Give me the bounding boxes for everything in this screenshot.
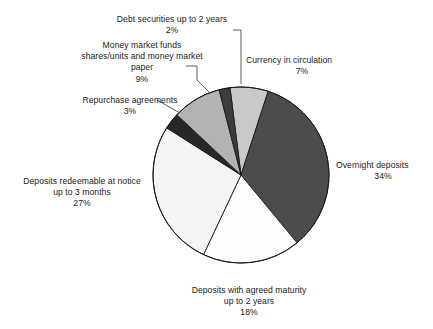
slice-label-money-market-funds-line3: paper bbox=[46, 62, 238, 73]
slice-label-money-market-funds-line2: shares/units and money market bbox=[46, 51, 238, 62]
slice-label-currency-in-circulation: Currency in circulation 7% bbox=[246, 55, 376, 77]
slice-label-overnight-line1: Overnight deposits bbox=[336, 160, 432, 171]
slice-label-repurchase-agreements-line1: Repurchase agreements bbox=[40, 95, 220, 106]
slice-label-deposits-agreed-maturity-line2: up to 2 years bbox=[158, 296, 340, 307]
slice-label-deposits-agreed-maturity-line1: Deposits with agreed maturity bbox=[158, 285, 340, 296]
slice-label-deposits-redeemable-line1: Deposits redeemable at notice bbox=[6, 176, 158, 187]
slice-label-deposits-agreed-maturity: Deposits with agreed maturity up to 2 ye… bbox=[158, 285, 340, 319]
slice-label-debt-securities-line1: Debt securities up to 2 years bbox=[92, 14, 252, 25]
slice-label-deposits-redeemable-line2: up to 3 months bbox=[6, 187, 158, 198]
slice-value-deposits-redeemable: 27% bbox=[6, 198, 158, 209]
slice-label-overnight-deposits: Overnight deposits 34% bbox=[336, 160, 432, 182]
slice-value-overnight: 34% bbox=[336, 171, 430, 182]
slice-value-deposits-agreed-maturity: 18% bbox=[158, 307, 340, 318]
slice-label-money-market-funds-line1: Money market funds bbox=[46, 40, 238, 51]
slice-label-money-market-funds: Money market funds shares/units and mone… bbox=[46, 40, 238, 85]
slice-value-repurchase-agreements: 3% bbox=[40, 106, 220, 117]
slice-label-currency-line1: Currency in circulation bbox=[246, 55, 376, 66]
slice-label-repurchase-agreements: Repurchase agreements 3% bbox=[40, 95, 220, 117]
slice-label-deposits-redeemable-at-notice: Deposits redeemable at notice up to 3 mo… bbox=[6, 176, 158, 210]
pie-chart-figure: Debt securities up to 2 years 2% Money m… bbox=[0, 0, 433, 329]
slice-label-debt-securities: Debt securities up to 2 years 2% bbox=[92, 14, 252, 36]
slice-value-debt-securities: 2% bbox=[92, 25, 252, 36]
slice-value-money-market-funds: 9% bbox=[46, 74, 238, 85]
slice-value-currency: 7% bbox=[246, 66, 358, 77]
